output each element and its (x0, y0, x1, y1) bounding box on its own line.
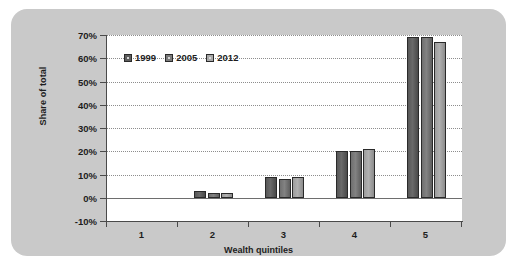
y-axis-tick (100, 198, 106, 199)
legend-label: 1999 (135, 52, 156, 63)
chart-legend: 199920052012 (124, 52, 238, 63)
x-axis-tick (248, 221, 249, 227)
bar-1999-q3 (265, 177, 277, 198)
bar-face (279, 179, 291, 198)
bar-2005-q2 (208, 193, 220, 198)
bar-face (421, 37, 433, 197)
x-axis-tick (390, 221, 391, 227)
legend-swatch-icon (206, 54, 214, 62)
bar-face (407, 37, 419, 197)
y-axis-tick-label: 60% (37, 53, 97, 64)
bar-face (194, 191, 206, 198)
bar-1999-q5 (407, 37, 419, 197)
x-axis-tick-label: 1 (127, 229, 157, 240)
y-axis-tick (100, 105, 106, 106)
legend-label: 2005 (176, 52, 197, 63)
y-axis-tick (100, 175, 106, 176)
bar-face (350, 151, 362, 198)
bar-2005-q5 (421, 37, 433, 197)
x-axis-line (106, 221, 463, 222)
x-axis-tick (461, 221, 462, 227)
y-axis-tick-label: 20% (37, 146, 97, 157)
y-axis-tick (100, 128, 106, 129)
x-axis-tick-label: 2 (198, 229, 228, 240)
bar-2012-q4 (363, 149, 375, 198)
x-axis-tick (177, 221, 178, 227)
y-axis-line (106, 35, 107, 221)
bar-2012-q2 (221, 193, 233, 198)
y-axis-tick (100, 151, 106, 152)
bar-face (434, 42, 446, 198)
legend-swatch-icon (124, 54, 132, 62)
y-axis-tick-label: 40% (37, 99, 97, 110)
y-axis-tick (100, 58, 106, 59)
bar-2012-q3 (292, 177, 304, 198)
y-axis-tick (100, 82, 106, 83)
y-axis-tick-label: -10% (37, 216, 97, 227)
legend-item-1999: 1999 (124, 52, 156, 63)
legend-item-2005: 2005 (165, 52, 197, 63)
chart-panel: Share of total 70%60%50%40%30%20%10%0%-1… (11, 9, 506, 256)
legend-swatch-icon (165, 54, 173, 62)
bar-2005-q4 (350, 151, 362, 198)
gridline (107, 35, 462, 36)
zero-line (107, 198, 462, 199)
bar-1999-q4 (336, 151, 348, 198)
bar-1999-q2 (194, 191, 206, 198)
x-axis-tick (106, 221, 107, 227)
y-axis-tick-label: 70% (37, 30, 97, 41)
bar-2005-q3 (279, 179, 291, 198)
bar-face (265, 177, 277, 198)
y-axis-tick-label: 0% (37, 192, 97, 203)
x-axis-title: Wealth quintiles (11, 245, 506, 255)
x-axis-tick-label: 3 (269, 229, 299, 240)
y-axis-tick (100, 35, 106, 36)
x-axis-tick (319, 221, 320, 227)
x-axis-tick-label: 5 (411, 229, 441, 240)
bar-face (336, 151, 348, 198)
y-axis-labels: 70%60%50%40%30%20%10%0%-10% (29, 35, 97, 221)
bar-face (363, 149, 375, 198)
bar-face (208, 193, 220, 198)
legend-item-2012: 2012 (206, 52, 238, 63)
y-axis-tick-label: 10% (37, 169, 97, 180)
legend-label: 2012 (217, 52, 238, 63)
y-axis-tick-label: 30% (37, 123, 97, 134)
bar-face (221, 193, 233, 198)
y-axis-tick-label: 50% (37, 76, 97, 87)
bar-2012-q5 (434, 42, 446, 198)
bar-face (292, 177, 304, 198)
x-axis-tick-label: 4 (340, 229, 370, 240)
